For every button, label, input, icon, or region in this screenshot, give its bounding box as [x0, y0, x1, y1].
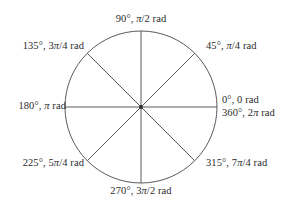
angle-label-180-degrees: 180°,	[18, 100, 44, 111]
angle-label-315: 315°, 7π/4 rad	[206, 157, 267, 170]
angle-label-360-radians: rad	[259, 107, 275, 118]
angle-label-135-radians: /4 rad	[59, 40, 84, 51]
angle-label-0-and-360: 0°, 0 rad 360°, 2π rad	[222, 94, 275, 119]
angle-label-45: 45°, π/4 rad	[206, 40, 257, 53]
angle-label-270-radians: /2 rad	[147, 185, 172, 196]
unit-circle-diagram: 90°, π/2 rad 45°, π/4 rad 135°, 3π/4 rad…	[0, 0, 295, 212]
angle-label-360-degrees: 360°, 2	[222, 107, 253, 118]
angle-label-90-radians: /2 rad	[142, 13, 167, 24]
angle-label-0: 0°, 0 rad	[222, 94, 275, 107]
circle-center-dot	[139, 105, 143, 109]
angle-label-135: 135°, 3π/4 rad	[23, 40, 84, 53]
angle-label-225-radians: /4 rad	[59, 157, 84, 168]
angle-label-180-radians: rad	[50, 100, 66, 111]
angle-label-90: 90°, π/2 rad	[116, 13, 167, 26]
angle-label-0-text: 0°, 0 rad	[222, 94, 259, 105]
angle-label-270-degrees: 270°, 3	[110, 185, 141, 196]
angle-label-315-radians: /4 rad	[243, 157, 268, 168]
angle-label-315-degrees: 315°, 7	[206, 157, 237, 168]
angle-label-225-degrees: 225°, 5	[23, 157, 54, 168]
angle-label-225: 225°, 5π/4 rad	[23, 157, 84, 170]
angle-label-135-degrees: 135°, 3	[23, 40, 54, 51]
angle-label-45-degrees: 45°,	[206, 40, 226, 51]
angle-label-45-radians: /4 rad	[232, 40, 257, 51]
angle-label-360: 360°, 2π rad	[222, 107, 275, 120]
angle-label-180: 180°, π rad	[18, 100, 66, 113]
angle-label-270: 270°, 3π/2 rad	[110, 185, 171, 198]
angle-label-90-degrees: 90°,	[116, 13, 136, 24]
